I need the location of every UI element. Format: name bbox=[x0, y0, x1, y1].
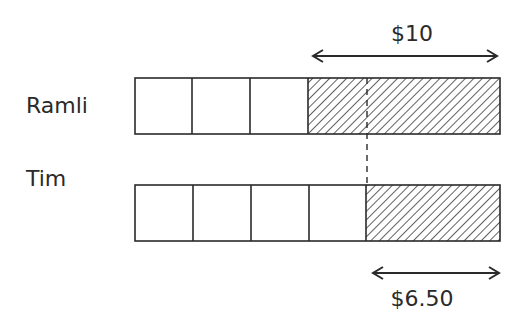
ramli-label: Ramli bbox=[26, 93, 88, 118]
tim-amount-label: $6.50 bbox=[391, 286, 454, 311]
tim-bar bbox=[135, 185, 500, 241]
bar-model-diagram: Ramli $10 Tim $6.50 bbox=[0, 0, 525, 328]
ramli-hatched-part bbox=[308, 78, 500, 134]
tim-label: Tim bbox=[25, 166, 66, 191]
ramli-bar bbox=[135, 78, 500, 134]
tim-hatched-part bbox=[366, 185, 500, 241]
ramli-amount-label: $10 bbox=[391, 21, 433, 46]
